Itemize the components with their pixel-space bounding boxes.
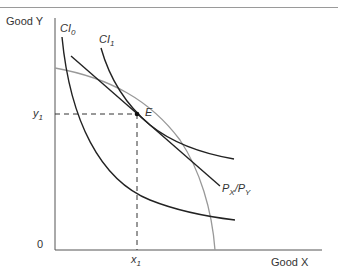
y-axis-label: Good Y — [6, 15, 43, 27]
indifference-diagram — [0, 0, 338, 279]
price-ratio-label: PX/PY — [222, 182, 250, 197]
ppf-curve — [55, 68, 215, 250]
ci0-label: CI0 — [60, 22, 75, 37]
origin-label: 0 — [37, 238, 43, 250]
ci1-label: CI1 — [99, 33, 114, 48]
ci0-curve — [62, 37, 235, 220]
x1-label: x1 — [131, 253, 141, 268]
equilibrium-point — [135, 112, 140, 117]
x-axis-label: Good X — [271, 256, 308, 268]
y1-label: y1 — [33, 107, 43, 122]
price-line — [71, 56, 220, 186]
ci1-curve — [101, 48, 234, 159]
point-e-label: E — [145, 106, 152, 118]
